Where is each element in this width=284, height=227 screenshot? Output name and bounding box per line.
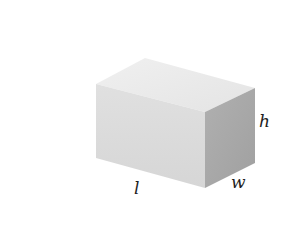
length-label: l	[134, 180, 139, 197]
rectangular-prism-diagram	[0, 0, 284, 227]
width-label: w	[231, 174, 246, 191]
height-label: h	[259, 113, 270, 130]
